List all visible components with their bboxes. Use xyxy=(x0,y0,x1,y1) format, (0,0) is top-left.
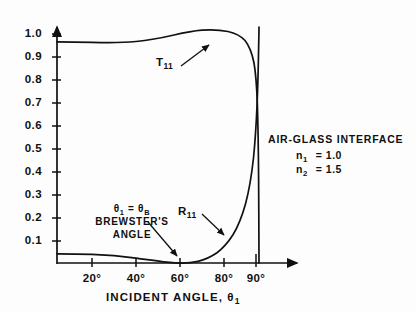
y-tick-label: 0.1 xyxy=(8,234,42,246)
r11-leader-arrow xyxy=(202,214,224,235)
y-tick-label: 0.8 xyxy=(8,73,42,85)
x-axis-title-text: INCIDENT ANGLE, θ xyxy=(106,291,235,303)
brewster-line-3: ANGLE xyxy=(74,229,190,240)
y-tick-label: 0.5 xyxy=(8,142,42,154)
y-tick-label: 0.6 xyxy=(8,119,42,131)
brewster-thetaB-subscript: B xyxy=(144,208,150,217)
y-tick-label: 0.2 xyxy=(8,211,42,223)
x-axis-title-subscript: 1 xyxy=(235,296,241,306)
y-tick-label: 0.4 xyxy=(8,165,42,177)
brewster-theta1-symbol: θ xyxy=(114,203,120,214)
y-tick-label: 1.0 xyxy=(8,27,42,39)
x-tick-label: 60° xyxy=(160,272,200,284)
figure-canvas: 1.0 0.9 0.8 0.7 0.6 0.5 0.4 0.3 0.2 0.1 … xyxy=(0,0,416,313)
n1-value: = 1.0 xyxy=(316,149,342,161)
brewster-theta1-subscript: 1 xyxy=(120,208,125,217)
y-tick-label: 0.9 xyxy=(8,50,42,62)
t11-leader-arrow xyxy=(181,45,209,66)
brewster-line-2: BREWSTER'S xyxy=(74,216,190,227)
curve-label-t11: T11 xyxy=(156,56,173,68)
n1-subscript: 1 xyxy=(303,155,308,164)
n2-subscript: 2 xyxy=(303,169,308,178)
y-tick-label: 0.3 xyxy=(8,188,42,200)
note-n2: n2= 1.5 xyxy=(268,163,408,175)
x-tick-label: 90° xyxy=(236,272,276,284)
x-tick-label: 40° xyxy=(116,272,156,284)
brewster-line-1: θ1 = θB xyxy=(74,203,190,214)
air-glass-note: AIR-GLASS INTERFACE n1= 1.0 n2= 1.5 xyxy=(268,133,408,175)
note-n1: n1= 1.0 xyxy=(268,149,408,161)
x-axis-title: INCIDENT ANGLE, θ1 xyxy=(106,291,240,303)
n2-value: = 1.5 xyxy=(316,163,342,175)
t11-subscript: 11 xyxy=(163,61,173,71)
note-title: AIR-GLASS INTERFACE xyxy=(268,133,408,145)
n2-symbol: n xyxy=(296,163,303,175)
y-tick-label: 0.7 xyxy=(8,96,42,108)
brewster-equals: = θ xyxy=(125,203,145,214)
n1-symbol: n xyxy=(296,149,303,161)
x-tick-label: 20° xyxy=(72,272,112,284)
brewster-annotation: θ1 = θB BREWSTER'S ANGLE xyxy=(74,203,190,240)
